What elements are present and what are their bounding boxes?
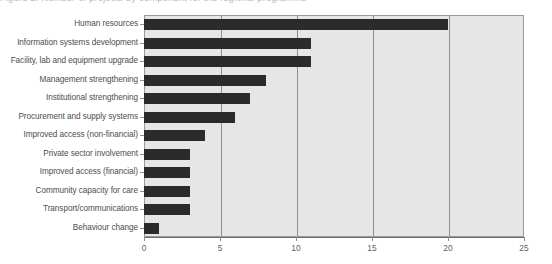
category-label: Facility, lab and equipment upgrade <box>11 52 138 71</box>
x-tick-label: 15 <box>357 243 387 253</box>
bar-row <box>144 71 524 90</box>
x-tick-20 <box>448 237 449 241</box>
x-tick-label: 20 <box>433 243 463 253</box>
chart-figure: Figure 2. Number of projects by componen… <box>0 0 552 264</box>
category-label: Human resources <box>74 15 138 34</box>
bar-row <box>144 108 524 127</box>
bars-layer <box>144 15 524 237</box>
category-label-row: Procurement and supply systems <box>0 108 144 127</box>
x-tick-label: 25 <box>509 243 539 253</box>
category-label-row: Improved access (financial) <box>0 163 144 182</box>
bar <box>144 93 250 104</box>
bar <box>144 223 159 234</box>
category-label: Procurement and supply systems <box>18 108 138 127</box>
bar-row <box>144 145 524 164</box>
bar <box>144 56 311 67</box>
category-label: Private sector involvement <box>43 145 138 164</box>
category-axis: Human resourcesInformation systems devel… <box>0 15 144 237</box>
category-label-row: Behaviour change <box>0 219 144 238</box>
bar-row <box>144 89 524 108</box>
category-label: Institutional strengthening <box>46 89 138 108</box>
bar-row <box>144 126 524 145</box>
bar-row <box>144 219 524 238</box>
category-label-row: Human resources <box>0 15 144 34</box>
bar <box>144 19 448 30</box>
x-tick-25 <box>524 237 525 241</box>
category-label-row: Private sector involvement <box>0 145 144 164</box>
bar <box>144 38 311 49</box>
bar <box>144 186 190 197</box>
bar <box>144 112 235 123</box>
category-label-row: Management strengthening <box>0 71 144 90</box>
category-label-row: Information systems development <box>0 34 144 53</box>
x-tick-label: 5 <box>205 243 235 253</box>
bar <box>144 167 190 178</box>
x-tick-5 <box>220 237 221 241</box>
category-label: Management strengthening <box>40 71 138 90</box>
x-axis-line <box>144 237 525 238</box>
bar <box>144 130 205 141</box>
category-label: Improved access (financial) <box>40 163 138 182</box>
x-tick-15 <box>372 237 373 241</box>
bar-row <box>144 15 524 34</box>
bar <box>144 204 190 215</box>
category-label: Community capacity for care <box>36 182 138 201</box>
category-label-row: Improved access (non-financial) <box>0 126 144 145</box>
bar-row <box>144 163 524 182</box>
category-label-row: Community capacity for care <box>0 182 144 201</box>
category-label: Behaviour change <box>73 219 138 238</box>
category-label-row: Facility, lab and equipment upgrade <box>0 52 144 71</box>
category-label-row: Transport/communications <box>0 200 144 219</box>
x-tick-label: 0 <box>129 243 159 253</box>
category-label: Transport/communications <box>43 200 138 219</box>
x-tick-0 <box>144 237 145 241</box>
bar <box>144 149 190 160</box>
bar-row <box>144 34 524 53</box>
category-label: Improved access (non-financial) <box>24 126 139 145</box>
cut-off-title: Figure 2. Number of projects by componen… <box>0 0 552 5</box>
category-label-row: Institutional strengthening <box>0 89 144 108</box>
x-tick-10 <box>296 237 297 241</box>
bar-row <box>144 52 524 71</box>
category-label: Information systems development <box>17 34 138 53</box>
bar <box>144 75 266 86</box>
bar-row <box>144 182 524 201</box>
x-tick-label: 10 <box>281 243 311 253</box>
bar-row <box>144 200 524 219</box>
